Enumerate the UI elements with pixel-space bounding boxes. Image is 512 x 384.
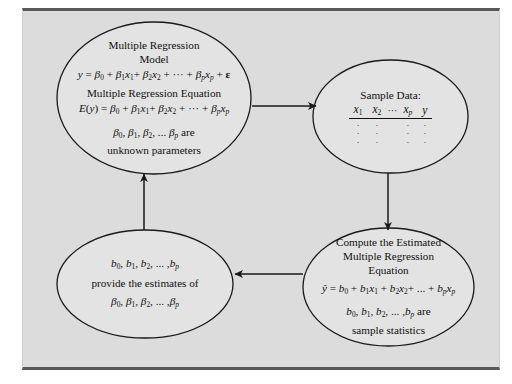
estimates-statistics-line: b0, b1, b2, ... ,bp bbox=[111, 256, 179, 274]
cell-dot: . bbox=[398, 136, 417, 145]
estimates-parameters-line: β0, β1, β2, ... ,βp bbox=[111, 294, 179, 312]
diagram-page: Multiple Regression Model y = β0 + β1x1+… bbox=[0, 0, 512, 384]
model-subtitle: Multiple Regression Equation bbox=[87, 87, 221, 101]
table-row: . . . . bbox=[349, 127, 433, 136]
column-header-ellipsis: ··· bbox=[386, 103, 398, 119]
table-row: . . . . bbox=[349, 118, 433, 127]
model-expected-value-equation: E(y) = β0 + β1x1+ β2x2 + ··· + βpxp bbox=[79, 101, 229, 119]
cell-dot: . bbox=[417, 136, 432, 145]
node-compute-estimated-equation: Compute the Estimated Multiple Regressio… bbox=[303, 228, 474, 346]
column-header-x2: x2 bbox=[367, 103, 386, 119]
sample-data-header-row: x1 x2 ··· xp y bbox=[349, 103, 433, 119]
cell-dot: . bbox=[349, 136, 368, 145]
estimates-middle-line: provide the estimates of bbox=[91, 277, 198, 291]
node-estimates-of-parameters: b0, b1, b2, ... ,bp provide the estimate… bbox=[57, 230, 233, 338]
table-row: . . . . bbox=[349, 136, 433, 145]
compute-title-line-3: Equation bbox=[368, 264, 408, 278]
column-header-x1: x1 bbox=[349, 103, 368, 119]
compute-title-line-1: Compute the Estimated bbox=[336, 236, 441, 250]
model-parameters-line: β0, β1, β2, ... βp are bbox=[113, 125, 195, 143]
cell-dot: . bbox=[367, 136, 386, 145]
compute-statistics-line: b0, b1, b2, ... ,bp are bbox=[346, 304, 430, 322]
sample-data-table: x1 x2 ··· xp y . . . . . . bbox=[349, 103, 433, 145]
cell-dot bbox=[386, 118, 398, 127]
model-title-line-1: Multiple Regression bbox=[108, 39, 199, 53]
model-equation: y = β0 + β1x1+ β2x2 + ··· + βpxp + ε bbox=[78, 67, 231, 85]
column-header-y: y bbox=[417, 103, 432, 119]
model-title-line-2: Model bbox=[139, 53, 168, 67]
sample-data-title: Sample Data: bbox=[360, 89, 421, 101]
node-sample-data: Sample Data: x1 x2 ··· xp y . . . . bbox=[313, 60, 468, 173]
cell-dot bbox=[386, 127, 398, 136]
compute-title-line-2: Multiple Regression bbox=[343, 250, 434, 264]
model-closing-line: unknown parameters bbox=[107, 144, 201, 158]
compute-equation: ŷ = b0 + b1x1 + b2x2+ ... + bpxp bbox=[322, 281, 455, 299]
compute-closing-line: sample statistics bbox=[352, 324, 425, 338]
column-header-xp: xp bbox=[398, 103, 417, 119]
node-multiple-regression-model: Multiple Regression Model y = β0 + β1x1+… bbox=[57, 22, 251, 174]
cell-dot bbox=[386, 136, 398, 145]
